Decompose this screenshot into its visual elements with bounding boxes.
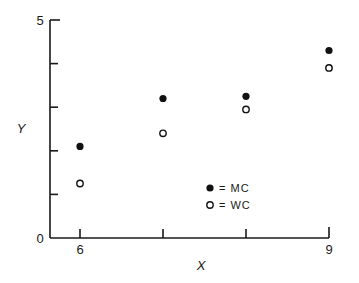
data-point-mc [242,93,249,100]
data-points [76,47,332,187]
legend: = MC = WC [206,182,250,211]
legend-mc-label: = MC [219,182,250,194]
data-point-mc [159,95,166,102]
x-tick-label-9: 9 [325,242,332,257]
data-point-mc [76,143,83,150]
filled-circle-icon [206,184,213,191]
x-tick-label-6: 6 [76,242,83,257]
y-tick-label-5: 5 [36,13,43,28]
data-point-wc [243,106,249,112]
data-point-mc [325,47,332,54]
data-point-wc [326,65,332,71]
y-tick-label-0: 0 [36,231,43,246]
x-axis-label: X [196,258,207,273]
scatter-chart: 5 0 6 9 Y X = MC = WC [0,0,359,283]
y-axis [50,20,60,238]
x-axis [50,227,329,238]
data-point-wc [77,180,83,186]
y-axis-label: Y [17,121,27,136]
legend-wc-label: = WC [219,199,251,211]
data-point-wc [160,130,166,136]
open-circle-icon [207,202,213,208]
